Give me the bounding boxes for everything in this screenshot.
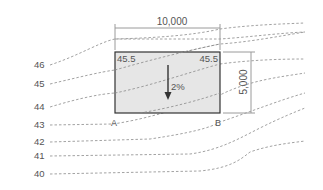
- contour-label-46: 46: [34, 59, 45, 70]
- elevation-top-left: 45.5: [117, 53, 136, 64]
- site-plan-diagram: 10,000 5,000 45.5 45.5 2% A B 46 45 44 4…: [0, 0, 323, 190]
- contour-41: [50, 108, 305, 156]
- contour-40: [50, 141, 305, 174]
- elevation-top-right: 45.5: [200, 53, 219, 64]
- height-label: 5,000: [238, 69, 249, 94]
- contour-labels: 46 45 44 43 42 41 40: [34, 59, 45, 179]
- contour-45-upper: [115, 32, 305, 39]
- width-dimension: [115, 24, 220, 50]
- contour-label-44: 44: [34, 101, 45, 112]
- contour-label-40: 40: [34, 168, 45, 179]
- contour-label-45: 45: [34, 78, 45, 89]
- width-label: 10,000: [157, 16, 188, 27]
- slope-label: 2%: [171, 81, 185, 92]
- point-a-label: A: [111, 118, 117, 128]
- contour-label-41: 41: [34, 150, 45, 161]
- contour-label-43: 43: [34, 119, 45, 130]
- contour-label-42: 42: [34, 136, 45, 147]
- point-b-label: B: [215, 118, 221, 128]
